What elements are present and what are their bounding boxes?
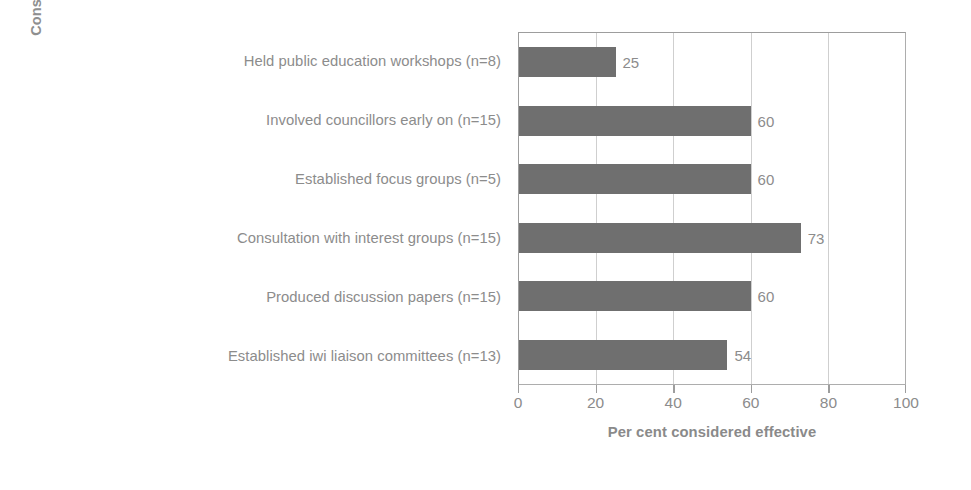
- bar-band-5: 54: [519, 326, 905, 385]
- bar-value-1: 60: [758, 112, 775, 129]
- y-axis-label-2: Established focus groups (n=5): [96, 150, 510, 209]
- bar-1[interactable]: 60: [519, 106, 751, 136]
- x-tick-60: [751, 385, 752, 393]
- y-axis-label-4: Produced discussion papers (n=15): [96, 267, 510, 326]
- x-tick-100: [905, 385, 906, 393]
- y-axis-label-5: Established iwi liaison committees (n=13…: [96, 326, 510, 385]
- bar-series: 25 60 60 73 60: [519, 33, 905, 384]
- bar-band-0: 25: [519, 33, 905, 92]
- bar-band-3: 73: [519, 209, 905, 268]
- y-axis-title-line-1: Consultation actions and frequency: [28, 0, 44, 36]
- bar-chart: Consultation actions and frequency of us…: [0, 0, 971, 490]
- x-axis-title: Per cent considered effective: [518, 424, 906, 440]
- x-axis-ticks: [518, 385, 906, 393]
- bar-0[interactable]: 25: [519, 47, 616, 77]
- bar-band-4: 60: [519, 267, 905, 326]
- bar-value-4: 60: [758, 288, 775, 305]
- bar-5[interactable]: 54: [519, 340, 727, 370]
- bar-value-0: 25: [623, 54, 640, 71]
- x-tick-20: [596, 385, 597, 393]
- plot-area: 25 60 60 73 60: [518, 32, 906, 385]
- y-axis-label-1: Involved councillors early on (n=15): [96, 91, 510, 150]
- x-ticklabel-40: 40: [665, 394, 682, 412]
- x-axis-tick-labels: 0 20 40 60 80 100: [518, 394, 906, 416]
- x-ticklabel-80: 80: [820, 394, 837, 412]
- x-ticklabel-60: 60: [742, 394, 759, 412]
- y-axis-label-3: Consultation with interest groups (n=15): [96, 208, 510, 267]
- bar-band-2: 60: [519, 150, 905, 209]
- x-ticklabel-100: 100: [893, 394, 919, 412]
- bar-value-3: 73: [808, 229, 825, 246]
- y-axis-category-labels: Held public education workshops (n=8) In…: [96, 32, 510, 385]
- bar-band-1: 60: [519, 92, 905, 151]
- x-ticklabel-0: 0: [514, 394, 523, 412]
- x-tick-0: [518, 385, 519, 393]
- bar-value-5: 54: [734, 346, 751, 363]
- bar-4[interactable]: 60: [519, 281, 751, 311]
- bar-value-2: 60: [758, 171, 775, 188]
- x-tick-80: [828, 385, 829, 393]
- y-axis-label-0: Held public education workshops (n=8): [96, 32, 510, 91]
- bar-3[interactable]: 73: [519, 223, 801, 253]
- x-ticklabel-20: 20: [587, 394, 604, 412]
- x-tick-40: [673, 385, 674, 393]
- bar-2[interactable]: 60: [519, 164, 751, 194]
- y-axis-title: Consultation actions and frequency of us…: [14, 0, 76, 86]
